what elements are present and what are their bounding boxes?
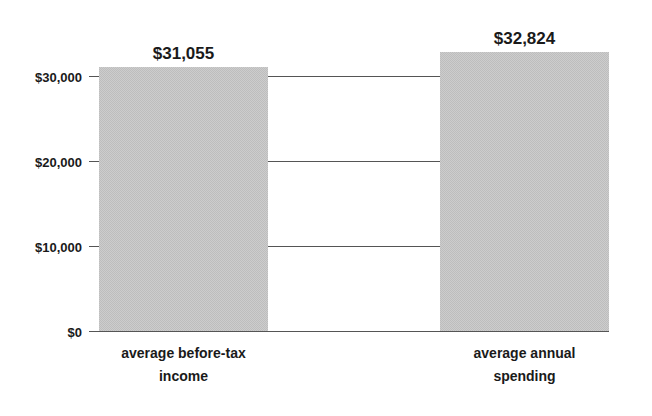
x-category-label: average annualspending [474,345,576,384]
bar-chart: $0$10,000$20,000$30,000 $31,055average b… [0,0,652,416]
x-category-label: average before-taxincome [121,345,246,384]
y-axis: $0$10,000$20,000$30,000 [35,70,99,340]
bars [99,52,609,331]
bar-value-label: $32,824 [494,29,556,48]
y-tick-label: $0 [68,325,82,340]
bar [99,67,268,331]
bar-value-label: $31,055 [153,44,214,63]
bar [440,52,609,331]
y-tick-label: $10,000 [35,240,82,255]
y-tick-label: $20,000 [35,155,82,170]
y-tick-label: $30,000 [35,70,82,85]
x-category-label-line: average before-tax [121,345,246,361]
x-category-label-line: income [159,368,208,384]
x-category-label-line: average annual [474,345,576,361]
x-category-label-line: spending [493,368,555,384]
